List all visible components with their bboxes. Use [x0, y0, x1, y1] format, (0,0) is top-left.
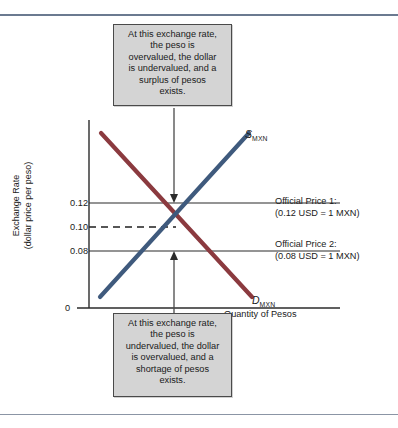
- shortage-callout-line-5: shortage of pesos: [136, 364, 209, 374]
- surplus-callout-line-1: At this exchange rate,: [128, 29, 217, 39]
- official-price-1-value: (0.12 USD = 1 MXN): [275, 208, 360, 218]
- supply-curve-subscript: MXN: [252, 135, 268, 142]
- y-tick-label-012: 0.12: [58, 198, 88, 208]
- official-price-1-title: Official Price 1:: [275, 196, 337, 206]
- demand-curve-subscript: MXN: [260, 301, 276, 308]
- shortage-callout-line-2: the peso is: [150, 329, 194, 339]
- shortage-callout-line-4: is overvalued, and a: [131, 352, 213, 362]
- y-axis-title-line1: Exchange Rate: [11, 175, 21, 237]
- origin-label: 0: [65, 303, 70, 313]
- official-price-2-note: Official Price 2: (0.08 USD = 1 MXN): [275, 239, 360, 262]
- official-price-1-note: Official Price 1: (0.12 USD = 1 MXN): [275, 196, 360, 219]
- demand-curve-label: DMXN: [252, 294, 275, 308]
- shortage-callout-line-6: exists.: [159, 375, 185, 385]
- y-tick-label-008: 0.08: [58, 246, 88, 256]
- demand-curve-letter: D: [252, 294, 260, 306]
- y-axis-title: Exchange Rate (dollar price per peso): [11, 151, 34, 261]
- shortage-callout-box: At this exchange rate, the peso is under…: [113, 313, 232, 397]
- supply-curve-letter: S: [245, 128, 252, 140]
- surplus-callout-arrow-head: [170, 194, 178, 203]
- shortage-callout-arrow-head: [170, 251, 178, 260]
- surplus-callout-box: At this exchange rate, the peso is overv…: [113, 24, 232, 106]
- surplus-callout-line-4: is undervalued, and a: [129, 63, 217, 73]
- shortage-callout-line-3: undervalued, the dollar: [126, 341, 219, 351]
- x-axis-title: Quantity of Pesos: [224, 309, 297, 319]
- surplus-callout-line-2: the peso is: [150, 40, 194, 50]
- official-price-2-value: (0.08 USD = 1 MXN): [275, 251, 360, 261]
- y-tick-label-010: 0.10: [58, 222, 88, 232]
- figure-frame: 0.12 0.10 0.08 0 Quantity of Pesos Excha…: [0, 0, 398, 428]
- official-price-2-title: Official Price 2:: [275, 239, 337, 249]
- bottom-divider-rule: [0, 414, 398, 415]
- supply-curve-label: SMXN: [245, 128, 268, 142]
- shortage-callout-line-1: At this exchange rate,: [128, 318, 217, 328]
- surplus-callout-line-3: overvalued, the dollar: [129, 52, 217, 62]
- surplus-callout-line-6: exists.: [159, 86, 185, 96]
- y-axis-title-line2: (dollar price per peso): [22, 162, 32, 250]
- surplus-callout-line-5: surplus of pesos: [139, 75, 206, 85]
